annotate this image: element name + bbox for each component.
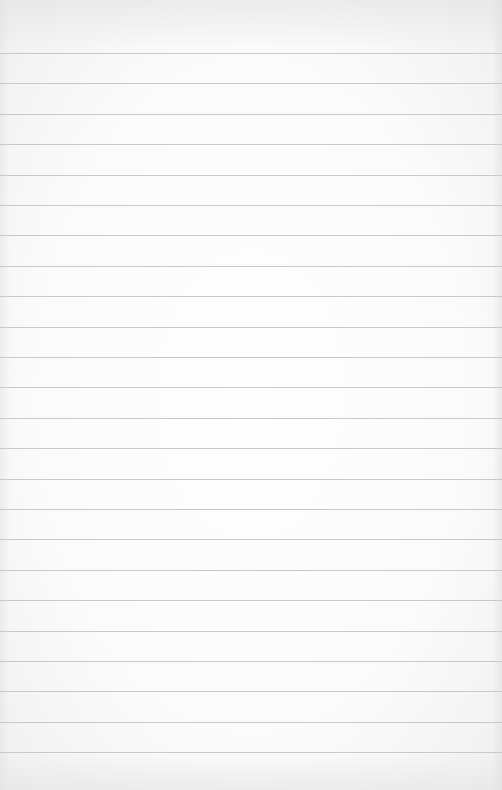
- ruled-line: [0, 296, 502, 297]
- paper-top-shadow: [0, 0, 502, 48]
- ruled-line: [0, 83, 502, 84]
- ruled-line: [0, 327, 502, 328]
- ruled-line: [0, 266, 502, 267]
- paper-left-shadow: [0, 0, 10, 790]
- ruled-line: [0, 387, 502, 388]
- ruled-line: [0, 600, 502, 601]
- ruled-line: [0, 205, 502, 206]
- ruled-line: [0, 539, 502, 540]
- ruled-line: [0, 691, 502, 692]
- ruled-line: [0, 144, 502, 145]
- ruled-line: [0, 235, 502, 236]
- lined-paper-sheet: [0, 0, 502, 790]
- ruled-line: [0, 661, 502, 662]
- paper-bottom-shadow: [0, 754, 502, 790]
- ruled-line: [0, 631, 502, 632]
- ruled-line: [0, 479, 502, 480]
- ruled-line: [0, 509, 502, 510]
- ruled-line: [0, 448, 502, 449]
- paper-right-shadow: [492, 0, 502, 790]
- ruled-line: [0, 722, 502, 723]
- ruled-line: [0, 175, 502, 176]
- ruled-line: [0, 114, 502, 115]
- ruled-line: [0, 752, 502, 753]
- ruled-line: [0, 418, 502, 419]
- ruled-line: [0, 53, 502, 54]
- ruled-line: [0, 570, 502, 571]
- ruled-line: [0, 357, 502, 358]
